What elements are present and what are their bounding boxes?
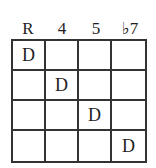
grid-cell xyxy=(13,71,46,101)
column-headers: R 4 5 ♭7 xyxy=(11,18,147,40)
column-header-root: R xyxy=(11,18,45,40)
grid-cell: D xyxy=(13,41,46,71)
grid-cell: D xyxy=(46,71,79,101)
grid-cell xyxy=(112,71,145,101)
grid-cell xyxy=(79,131,112,161)
grid-cell xyxy=(79,71,112,101)
note-grid: D D D D xyxy=(11,39,147,163)
grid-cell xyxy=(46,101,79,131)
grid-cell xyxy=(112,41,145,71)
grid-cell: D xyxy=(112,131,145,161)
grid-cell xyxy=(13,131,46,161)
column-header-flat-seventh: ♭7 xyxy=(113,18,147,40)
grid-cell xyxy=(46,41,79,71)
grid-cell xyxy=(112,101,145,131)
grid-cell: D xyxy=(79,101,112,131)
grid-cell xyxy=(46,131,79,161)
grid-cell xyxy=(13,101,46,131)
grid-cell xyxy=(79,41,112,71)
column-header-fifth: 5 xyxy=(79,18,113,40)
column-header-fourth: 4 xyxy=(45,18,79,40)
